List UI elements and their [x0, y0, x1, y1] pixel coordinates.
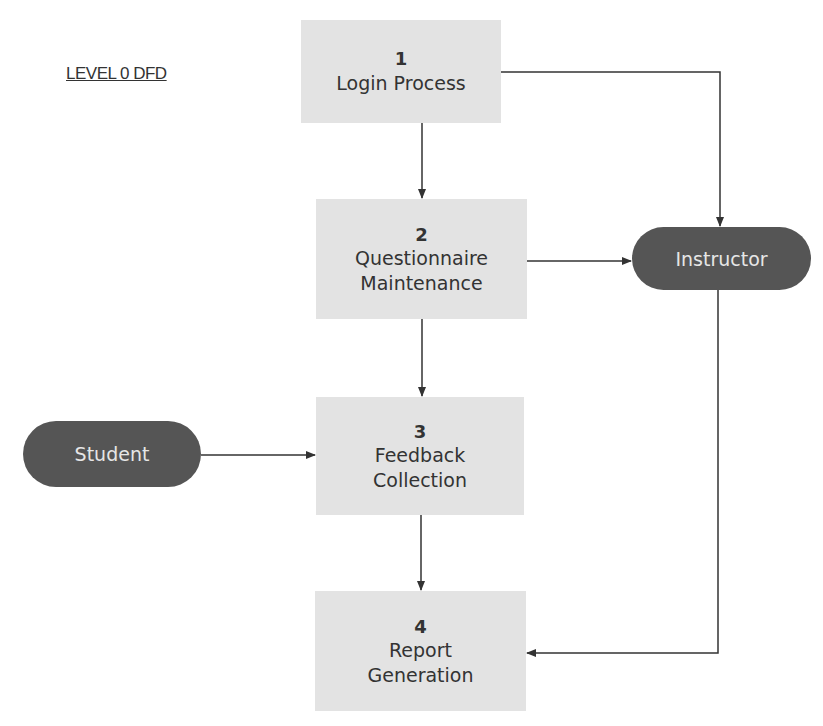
- process-number: 1: [395, 47, 408, 70]
- entity-label: Instructor: [675, 248, 767, 270]
- entity-label: Student: [75, 443, 150, 465]
- process-label: Login Process: [336, 71, 465, 96]
- entity-student: Student: [23, 421, 201, 487]
- process-label-line2: Collection: [373, 468, 467, 493]
- process-login: 1 Login Process: [301, 20, 501, 123]
- flow-instructor-to-report: [527, 290, 718, 653]
- process-number: 2: [415, 223, 428, 246]
- process-report-generation: 4 Report Generation: [315, 591, 526, 711]
- process-number: 4: [414, 615, 427, 638]
- process-number: 3: [414, 420, 427, 443]
- flow-login-to-instructor: [501, 72, 720, 226]
- process-label-line2: Maintenance: [360, 271, 482, 296]
- process-label-line1: Report: [389, 638, 452, 663]
- process-feedback-collection: 3 Feedback Collection: [316, 397, 524, 515]
- entity-instructor: Instructor: [632, 227, 811, 290]
- process-label-line1: Feedback: [375, 443, 465, 468]
- process-questionnaire-maintenance: 2 Questionnaire Maintenance: [316, 199, 527, 319]
- process-label-line1: Questionnaire: [355, 246, 488, 271]
- process-label-line2: Generation: [368, 663, 474, 688]
